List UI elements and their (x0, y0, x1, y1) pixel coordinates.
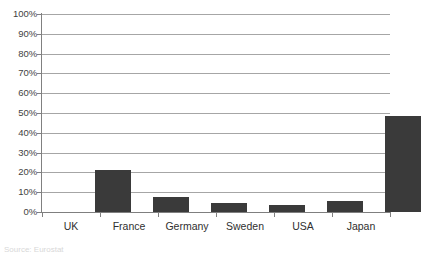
category-label-france: France (113, 221, 146, 232)
bar-germany (211, 203, 247, 212)
y-axis-tick-label: 90% (18, 29, 37, 39)
x-axis-tick (42, 212, 43, 217)
y-axis-tick (37, 172, 42, 173)
gridline (42, 34, 390, 35)
plot-area (42, 14, 390, 212)
y-axis-tick-label: 60% (18, 88, 37, 98)
category-label-uk: UK (64, 221, 79, 232)
y-axis-tick (37, 192, 42, 193)
gridline (42, 14, 390, 15)
category-label-sweden: Sweden (226, 221, 264, 232)
x-axis-tick (274, 212, 275, 217)
y-axis-tick (37, 93, 42, 94)
x-axis-tick (100, 212, 101, 217)
bar-sweden (269, 205, 305, 212)
y-axis-tick (37, 54, 42, 55)
y-axis-tick-label: 50% (18, 108, 37, 118)
gridline (42, 153, 390, 154)
category-label-japan: Japan (347, 221, 376, 232)
y-axis-tick-label: 30% (18, 148, 37, 158)
y-axis-tick-label: 0% (23, 207, 37, 217)
gridline (42, 73, 390, 74)
y-axis-tick-label: 70% (18, 69, 37, 79)
y-axis-tick-label: 40% (18, 128, 37, 138)
y-axis-tick (37, 153, 42, 154)
gridline (42, 93, 390, 94)
x-axis-tick (158, 212, 159, 217)
y-axis-tick (37, 34, 42, 35)
y-axis-tick (37, 133, 42, 134)
y-axis-tick-label: 100% (13, 9, 37, 19)
bar-japan (385, 116, 421, 212)
x-axis-tick (216, 212, 217, 217)
category-label-usa: USA (292, 221, 314, 232)
bar-uk (95, 170, 131, 212)
y-axis-tick-label: 80% (18, 49, 37, 59)
gridline (42, 54, 390, 55)
category-label-germany: Germany (165, 221, 208, 232)
y-axis-tick (37, 73, 42, 74)
x-axis-tick (332, 212, 333, 217)
bar-france (153, 197, 189, 212)
bar-usa (327, 201, 363, 212)
y-axis-tick-label: 10% (18, 187, 37, 197)
source-note: Source: Eurostat (4, 246, 64, 254)
x-axis-tick (390, 212, 391, 217)
y-axis-tick (37, 113, 42, 114)
gridline (42, 113, 390, 114)
gridline (42, 133, 390, 134)
y-axis-tick-label: 20% (18, 168, 37, 178)
y-axis-tick (37, 14, 42, 15)
